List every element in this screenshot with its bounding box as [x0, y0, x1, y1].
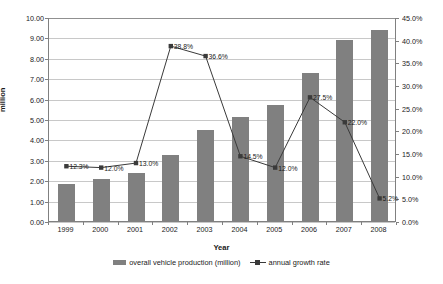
x-tick-label-2002: 2002: [162, 225, 178, 234]
y-tick-label-left: 0.00: [0, 218, 44, 227]
growth-label-2002: 38.8%: [174, 43, 193, 50]
x-axis-title: Year: [0, 243, 443, 252]
x-tick-mark: [48, 222, 49, 225]
y-tick-label-left: 5.00: [0, 116, 44, 125]
y-tick-label-right: 30.0%: [402, 82, 422, 91]
y-tick-label-right: 25.0%: [402, 104, 422, 113]
x-tick-label-2005: 2005: [266, 225, 282, 234]
growth-label-2007: 22.0%: [348, 119, 367, 126]
y-tick-label-left: 6.00: [0, 95, 44, 104]
legend-label-line: annual growth rate: [269, 258, 330, 267]
legend-swatch-line-icon: [250, 259, 266, 266]
vehicle-production-chart: million 0.001.002.003.004.005.006.007.00…: [0, 0, 443, 284]
line-marker-2003: [203, 54, 207, 58]
growth-label-2005: 12.0%: [278, 164, 297, 171]
x-tick-label-2004: 2004: [231, 225, 247, 234]
y-tick-label-left: 4.00: [0, 136, 44, 145]
x-tick-mark: [152, 222, 153, 225]
growth-label-2004: 14.5%: [243, 153, 262, 160]
chart-legend: overall vehicle production (million) ann…: [0, 258, 443, 267]
y-tick-label-left: 9.00: [0, 34, 44, 43]
y-tick-label-right: 15.0%: [402, 150, 422, 159]
y-tick-label-right: 40.0%: [402, 36, 422, 45]
y-tick-label-left: 1.00: [0, 197, 44, 206]
growth-label-2001: 13.0%: [139, 160, 158, 167]
legend-label-bar: overall vehicle production (million): [129, 258, 240, 267]
legend-item-bar: overall vehicle production (million): [113, 258, 240, 267]
line-marker-2002: [169, 44, 173, 48]
line-marker-1999: [64, 164, 68, 168]
legend-item-line: annual growth rate: [250, 258, 330, 267]
y-tick-label-left: 8.00: [0, 54, 44, 63]
plot-area: [48, 18, 396, 222]
y-tick-label-right: 20.0%: [402, 127, 422, 136]
growth-label-2006: 27.5%: [313, 94, 332, 101]
y-tick-label-right: 10.0%: [402, 172, 422, 181]
growth-label-2008: 5.2%: [383, 195, 399, 202]
line-marker-2001: [134, 161, 138, 165]
y-tick-label-right: 45.0%: [402, 14, 422, 23]
x-tick-label-2001: 2001: [127, 225, 143, 234]
growth-label-2003: 36.6%: [209, 53, 228, 60]
x-tick-label-2007: 2007: [336, 225, 352, 234]
x-tick-mark: [326, 222, 327, 225]
legend-swatch-bar-icon: [113, 260, 126, 265]
x-tick-mark: [396, 222, 397, 225]
x-tick-mark: [222, 222, 223, 225]
x-tick-label-2006: 2006: [301, 225, 317, 234]
x-tick-mark: [292, 222, 293, 225]
y-tick-label-right: 0.0%: [402, 218, 418, 227]
x-tick-label-1999: 1999: [57, 225, 73, 234]
x-tick-mark: [118, 222, 119, 225]
line-series: [49, 18, 397, 222]
x-tick-mark: [361, 222, 362, 225]
x-tick-mark: [83, 222, 84, 225]
x-tick-label-2008: 2008: [371, 225, 387, 234]
x-tick-mark: [187, 222, 188, 225]
line-marker-2004: [238, 154, 242, 158]
y-tick-label-left: 3.00: [0, 156, 44, 165]
growth-label-2000: 12.0%: [104, 164, 123, 171]
y-tick-label-right: 5.0%: [402, 195, 418, 204]
y-tick-label-right: 35.0%: [402, 59, 422, 68]
x-tick-mark: [257, 222, 258, 225]
line-marker-2008: [377, 196, 381, 200]
line-marker-2000: [99, 165, 103, 169]
y-tick-label-left: 7.00: [0, 75, 44, 84]
line-marker-2007: [343, 120, 347, 124]
line-marker-2005: [273, 165, 277, 169]
x-tick-label-2000: 2000: [92, 225, 108, 234]
y-tick-label-left: 2.00: [0, 177, 44, 186]
line-marker-2006: [308, 95, 312, 99]
x-tick-label-2003: 2003: [197, 225, 213, 234]
y-tick-label-left: 10.00: [0, 14, 44, 23]
growth-label-1999: 12.3%: [69, 163, 88, 170]
